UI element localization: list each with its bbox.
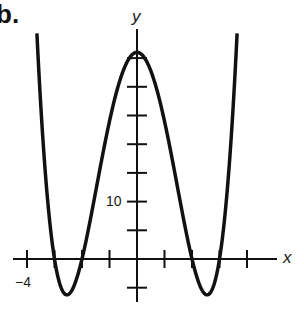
y-axis-label: y — [131, 7, 142, 26]
x-axis-label: x — [282, 248, 292, 267]
y-tick-label-10: 10 — [106, 193, 122, 209]
figure-part-label: b. — [0, 0, 19, 29]
x-tick-label-neg4: −4 — [15, 274, 31, 290]
function-graph: b. −4 10 x y — [0, 0, 304, 324]
